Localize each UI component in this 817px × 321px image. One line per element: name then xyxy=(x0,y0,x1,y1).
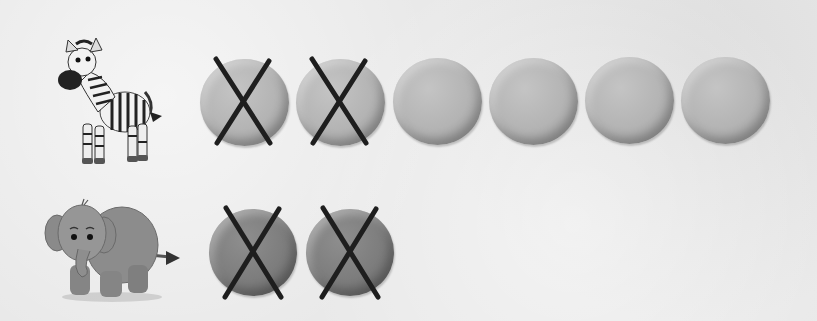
circle-crossed xyxy=(200,59,289,146)
circle-crossed xyxy=(209,209,297,296)
cross-icon xyxy=(306,209,394,296)
cross-icon xyxy=(296,59,385,146)
circle xyxy=(489,58,578,145)
circle-crossed xyxy=(296,59,385,146)
circle xyxy=(393,58,482,145)
elephant-image xyxy=(42,195,182,305)
cross-icon xyxy=(209,209,297,296)
circle xyxy=(681,57,770,144)
circle xyxy=(585,57,674,144)
cross-icon xyxy=(200,59,289,146)
circle-crossed xyxy=(306,209,394,296)
zebra-image xyxy=(50,32,165,167)
